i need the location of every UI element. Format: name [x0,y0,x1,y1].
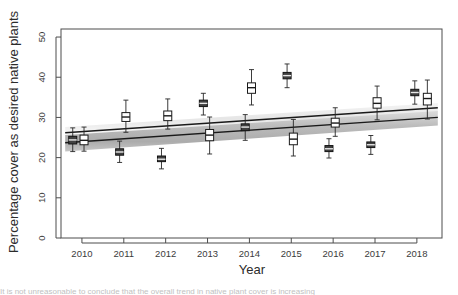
x-tick-label: 2015 [281,248,302,259]
y-tick-label: 20 [36,152,47,163]
x-axis-title: Year [239,262,266,277]
chart-canvas: Percentage cover as desired native plant… [0,0,458,295]
x-tick-label: 2013 [197,248,218,259]
x-tick-label: 2011 [114,248,134,259]
x-tick-label: 2016 [323,248,344,259]
x-tick-label: 2018 [406,248,427,259]
y-tick-label: 50 [36,32,47,43]
caption-fragment: It is not unreasonable to conclude that … [0,288,458,295]
y-tick-label: 10 [36,193,47,204]
x-tick-label: 2017 [364,248,385,259]
y-tick-label: 0 [36,235,47,240]
boxplot-figure: Percentage cover as desired native plant… [0,0,458,295]
x-tick-label: 2010 [71,248,92,259]
y-axis-title: Percentage cover as desired native plant… [6,10,21,253]
x-tick-label: 2014 [239,248,260,259]
y-tick-label: 40 [36,72,47,83]
y-tick-label: 30 [36,112,47,123]
x-tick-label: 2012 [155,248,176,259]
